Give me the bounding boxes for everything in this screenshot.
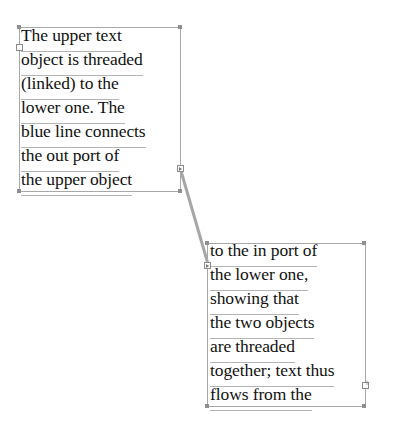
upper-text-object[interactable]: The upper text object is threaded (linke… [19, 27, 181, 192]
plus-icon: + [364, 379, 370, 387]
upper-in-port-icon[interactable] [16, 44, 23, 51]
lower-text-object[interactable]: to the in port of the lower one, showing… [207, 243, 366, 407]
lower-overflow-port-icon[interactable]: + [362, 382, 369, 389]
lower-top-right-handle[interactable] [362, 241, 366, 245]
upper-top-right-handle[interactable] [178, 25, 182, 29]
text-line: flows from the [210, 386, 312, 411]
text-line: the upper object [21, 171, 132, 196]
lower-bottom-right-handle[interactable] [362, 404, 366, 408]
upper-bottom-left-handle[interactable] [17, 189, 21, 193]
lower-top-left-handle[interactable] [205, 241, 209, 245]
lower-in-port-icon[interactable] [204, 262, 211, 269]
upper-top-left-handle[interactable] [17, 25, 21, 29]
lower-bottom-left-handle[interactable] [205, 404, 209, 408]
upper-out-port-icon[interactable] [177, 165, 184, 172]
upper-bottom-right-handle[interactable] [178, 189, 182, 193]
